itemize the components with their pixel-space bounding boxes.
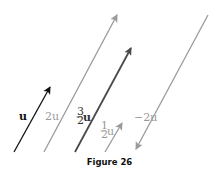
label-three-halves-var: u bbox=[83, 111, 91, 124]
label-negative-2u: −2u bbox=[134, 111, 157, 124]
label-u: u bbox=[19, 110, 27, 123]
vector-negative-2u-arrow bbox=[136, 15, 208, 149]
vector-diagram: u 2u 3 2 u 1 2 u −2u bbox=[0, 0, 219, 171]
label-2u: 2u bbox=[45, 110, 59, 123]
figure-caption: Figure 26 bbox=[0, 157, 219, 167]
label-one-half-var: u bbox=[107, 125, 114, 138]
